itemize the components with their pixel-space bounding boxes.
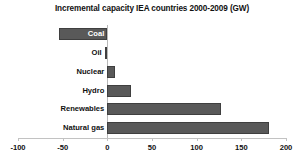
x-tick [286, 138, 287, 141]
x-tick [241, 138, 242, 141]
bar-renewables[interactable] [107, 103, 220, 115]
x-tick [63, 138, 64, 141]
bar-hydro[interactable] [107, 85, 130, 97]
category-label-hydro: Hydro [18, 85, 104, 97]
bar-row: Nuclear [18, 63, 286, 82]
bar-row: Coal [18, 25, 286, 44]
x-tick [152, 138, 153, 141]
x-tick [18, 138, 19, 141]
x-tick [197, 138, 198, 141]
x-tick-label: 200 [280, 143, 293, 152]
bar-nuclear[interactable] [107, 66, 115, 78]
bar-row: Hydro [18, 82, 286, 101]
bar-natural-gas[interactable] [107, 122, 269, 134]
bar-oil[interactable] [105, 47, 108, 59]
category-label-natural-gas: Natural gas [18, 122, 104, 134]
x-tick-label: 100 [190, 143, 203, 152]
x-tick [107, 138, 108, 141]
category-label-renewables: Renewables [18, 103, 104, 115]
category-label-nuclear: Nuclear [18, 66, 104, 78]
x-tick-label: 0 [105, 143, 109, 152]
x-tick-label: -100 [10, 143, 25, 152]
bar-chart: Incremental capacity IEA countries 2000-… [0, 0, 304, 165]
x-tick-label: -50 [57, 143, 68, 152]
plot-area: CoalOilNuclearHydroRenewablesNatural gas [18, 25, 286, 138]
category-label-oil: Oil [18, 47, 102, 59]
bar-row: Renewables [18, 100, 286, 119]
x-tick-label: 50 [148, 143, 156, 152]
category-label-coal: Coal [59, 28, 104, 40]
bar-row: Natural gas [18, 119, 286, 138]
bar-row: Oil [18, 44, 286, 63]
chart-title: Incremental capacity IEA countries 2000-… [0, 4, 304, 13]
x-tick-label: 150 [235, 143, 248, 152]
